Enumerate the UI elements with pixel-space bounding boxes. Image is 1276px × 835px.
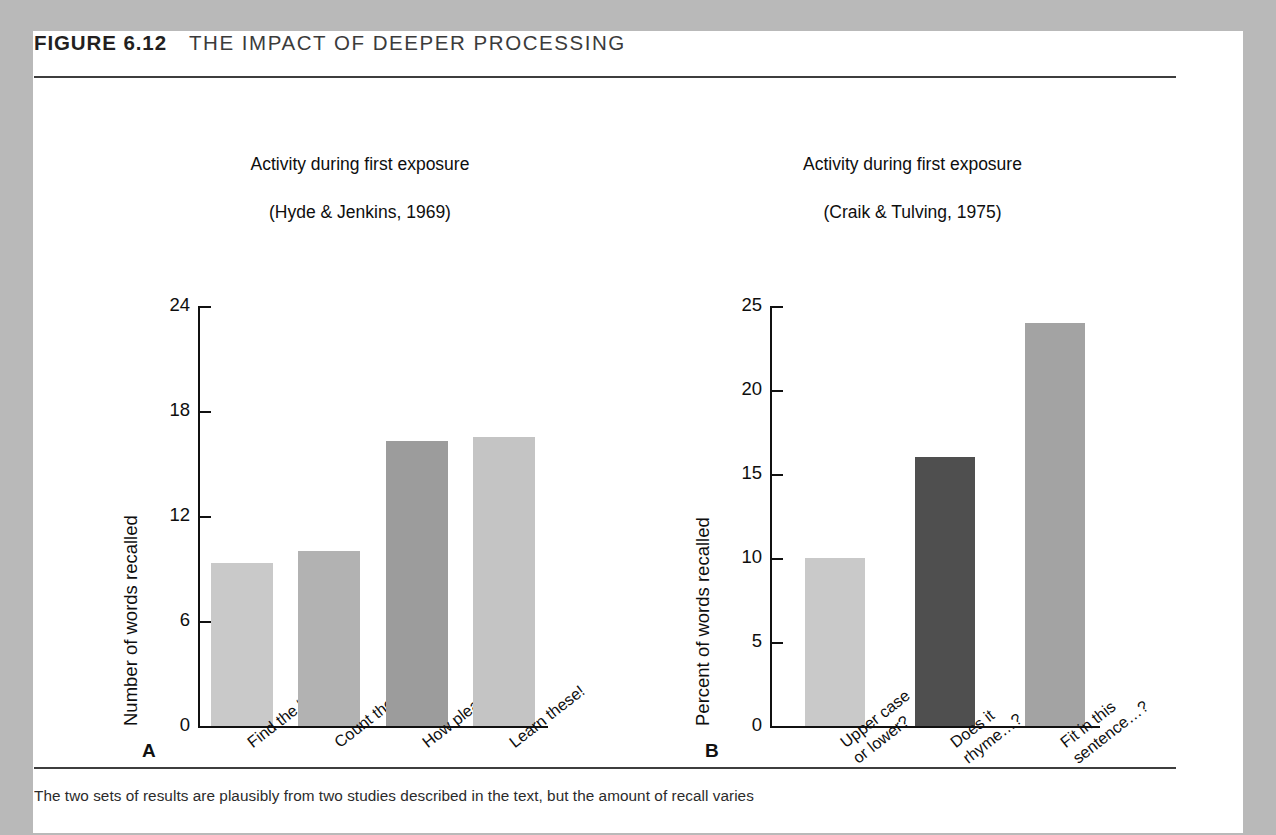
y-tick-label: 5 (714, 630, 762, 652)
y-tick (200, 411, 211, 413)
panel-b: Activity during first exposure (Craik & … (640, 128, 1185, 768)
y-tick-label: 10 (714, 546, 762, 568)
y-tick-label: 0 (142, 714, 190, 736)
panel-b-title-line1: Activity during first exposure (640, 152, 1185, 176)
y-axis-label: Percent of words recalled (692, 517, 714, 726)
bar (211, 563, 273, 726)
y-tick-label: 12 (142, 504, 190, 526)
panel-b-letter: B (705, 740, 719, 762)
bar (915, 457, 975, 726)
y-tick (772, 642, 783, 644)
x-axis-line (770, 726, 1100, 728)
y-axis-line (770, 306, 772, 726)
bar (473, 437, 535, 726)
y-tick (200, 516, 211, 518)
figure-page: FIGURE 6.12 THE IMPACT OF DEEPER PROCESS… (0, 0, 1276, 835)
panel-a-letter: A (142, 740, 156, 762)
panel-b-title-line2: (Craik & Tulving, 1975) (640, 200, 1185, 224)
y-tick-label: 15 (714, 462, 762, 484)
y-tick (772, 558, 783, 560)
bar (1025, 323, 1085, 726)
figure-header: FIGURE 6.12 THE IMPACT OF DEEPER PROCESS… (34, 31, 626, 55)
y-tick (200, 621, 211, 623)
bar (805, 558, 865, 726)
y-tick-label: 25 (714, 294, 762, 316)
panel-a: Activity during first exposure (Hyde & J… (80, 128, 640, 768)
y-tick-label: 18 (142, 399, 190, 421)
y-tick-label: 0 (714, 714, 762, 736)
y-axis-label: Number of words recalled (120, 515, 142, 726)
y-tick (200, 306, 211, 308)
y-tick (772, 306, 783, 308)
panel-b-title: Activity during first exposure (Craik & … (640, 128, 1185, 248)
bar (386, 441, 448, 726)
figure-caption: The two sets of results are plausibly fr… (34, 785, 1180, 833)
footer-divider (34, 767, 1176, 769)
y-tick-label: 24 (142, 294, 190, 316)
header-divider (34, 76, 1176, 78)
figure-title: THE IMPACT OF DEEPER PROCESSING (189, 31, 626, 55)
bar (298, 551, 360, 726)
panel-a-title-line2: (Hyde & Jenkins, 1969) (80, 200, 640, 224)
y-tick (772, 474, 783, 476)
y-tick-label: 6 (142, 609, 190, 631)
y-tick (772, 390, 783, 392)
figure-number: FIGURE 6.12 (34, 31, 167, 55)
y-tick-label: 20 (714, 378, 762, 400)
panel-a-title-line1: Activity during first exposure (80, 152, 640, 176)
panel-a-title: Activity during first exposure (Hyde & J… (80, 128, 640, 248)
